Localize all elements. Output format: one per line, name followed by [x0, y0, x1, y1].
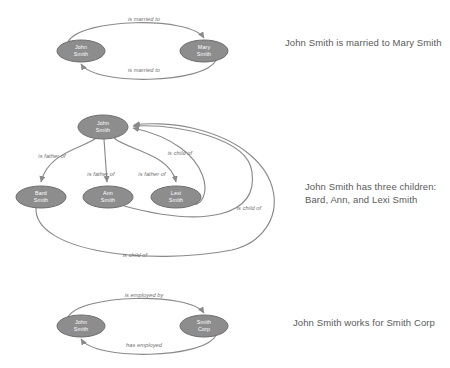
edge-john-employed-by-corp: [68, 298, 204, 317]
node-label-line1: Bard: [35, 190, 47, 196]
node-lexi-smith[interactable]: Lexi Smith: [151, 186, 201, 208]
node-john-smith[interactable]: John Smith: [57, 40, 105, 62]
node-label-line1: John: [75, 319, 87, 325]
edge-label-lexi-child-john: is child of: [168, 150, 194, 156]
node-label-line2: Smith: [74, 326, 88, 332]
edge-label-john-father-bard: is father of: [38, 153, 67, 159]
node-bard-smith[interactable]: Bard Smith: [16, 186, 66, 208]
edge-label-ann-child-john: is child of: [237, 205, 263, 211]
node-label-line2: Smith: [96, 127, 110, 133]
edge-label-john-employed-by-corp: is employed by: [125, 292, 165, 298]
node-mary-smith[interactable]: Mary Smith: [180, 40, 228, 62]
node-john-smith[interactable]: John Smith: [57, 315, 105, 337]
graph-employment: is employed by has employed John Smith S…: [0, 285, 290, 368]
edge-label-bard-child-john: is child of: [123, 252, 149, 258]
node-label-line2: Smith: [34, 197, 48, 203]
node-label-line2: Smith: [101, 197, 115, 203]
graph-married: is married to is married to John Smith M…: [0, 0, 290, 100]
node-label-line1: Lexi: [171, 190, 181, 196]
edge-label-john-married-mary: is married to: [128, 16, 160, 22]
node-john-smith[interactable]: John Smith: [78, 115, 128, 139]
node-label-line1: John: [75, 44, 87, 50]
edge-label-john-father-lexi: is father of: [138, 171, 167, 177]
node-label-line2: Smith: [169, 197, 183, 203]
node-label-line2: Smith: [197, 51, 211, 57]
diagram-page: is married to is married to John Smith M…: [0, 0, 450, 368]
node-ann-smith[interactable]: Ann Smith: [83, 186, 133, 208]
caption-married: John Smith is married to Mary Smith: [285, 36, 442, 49]
node-label-line2: Smith: [74, 51, 88, 57]
node-label-line1: Mary: [198, 44, 211, 50]
edge-label-john-father-ann: is father of: [87, 171, 116, 177]
node-smith-corp[interactable]: Smith Corp: [180, 315, 228, 337]
caption-employment: John Smith works for Smith Corp: [293, 316, 435, 329]
node-label-line2: Corp: [198, 326, 210, 332]
section-children: is father of is father of is father of i…: [0, 100, 450, 285]
edge-john-married-mary: [68, 23, 204, 42]
edge-label-mary-married-john: is married to: [128, 67, 160, 73]
section-married: is married to is married to John Smith M…: [0, 0, 450, 100]
edge-bard-child-john: [36, 124, 274, 257]
node-label-line1: John: [97, 120, 109, 126]
node-label-line1: Smith: [197, 319, 211, 325]
edge-label-corp-has-employed-john: has employed: [126, 342, 163, 348]
node-label-line1: Ann: [103, 190, 113, 196]
caption-children: John Smith has three children: Bard, Ann…: [305, 180, 436, 206]
graph-children: is father of is father of is father of i…: [0, 100, 300, 285]
section-employment: is employed by has employed John Smith S…: [0, 285, 450, 368]
